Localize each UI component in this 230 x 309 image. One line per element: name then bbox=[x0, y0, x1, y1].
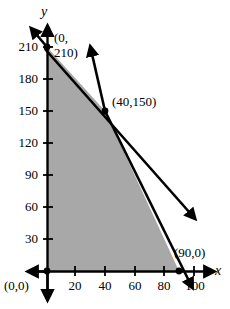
x-tick-label-80: 80 bbox=[149, 279, 179, 292]
x-tick-label-20: 20 bbox=[60, 279, 90, 292]
y-tick-label-210: 210 bbox=[8, 40, 38, 53]
point-label-origin: (0,0) bbox=[4, 279, 29, 292]
y-axis-label: y bbox=[41, 5, 47, 19]
point-label-y-intercept-line1: (0, bbox=[54, 31, 68, 44]
point-label-intersection: (40,150) bbox=[112, 95, 156, 108]
vertex-dot-intersection bbox=[102, 108, 109, 115]
graph-figure: 210 180 150 120 90 60 30 20 40 60 80 100… bbox=[0, 0, 230, 309]
y-tick-label-60: 60 bbox=[8, 200, 38, 213]
y-tick-label-90: 90 bbox=[8, 168, 38, 181]
point-label-x-intercept: (90,0) bbox=[174, 246, 205, 259]
x-tick-label-40: 40 bbox=[90, 279, 120, 292]
shaded-feasible-region bbox=[47, 47, 179, 271]
vertex-dot-x-intercept bbox=[176, 268, 183, 275]
y-tick-label-120: 120 bbox=[8, 136, 38, 149]
x-axis-label: x bbox=[215, 264, 221, 278]
vertex-dot-y-intercept bbox=[44, 44, 51, 51]
y-tick-label-150: 150 bbox=[8, 104, 38, 117]
y-tick-label-180: 180 bbox=[8, 72, 38, 85]
point-label-y-intercept-line2: 210) bbox=[54, 46, 78, 59]
vertex-dot-origin bbox=[44, 268, 51, 275]
x-tick-label-100: 100 bbox=[180, 279, 210, 292]
y-tick-label-30: 30 bbox=[8, 232, 38, 245]
x-tick-label-60: 60 bbox=[120, 279, 150, 292]
